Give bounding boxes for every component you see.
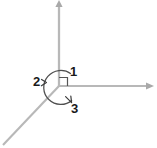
right-angle-square-marker <box>59 78 68 87</box>
angle-label-2: 2 <box>33 74 40 89</box>
diagram-canvas: 1 2 3 <box>0 0 157 148</box>
angle-label-3: 3 <box>71 101 78 116</box>
angle-label-1: 1 <box>70 64 77 79</box>
horizontal-axis-arrowhead <box>146 83 154 90</box>
vertical-axis-arrowhead <box>55 0 62 7</box>
angle-diagram: 1 2 3 <box>0 0 157 148</box>
diagonal-axis-line <box>3 86 59 145</box>
